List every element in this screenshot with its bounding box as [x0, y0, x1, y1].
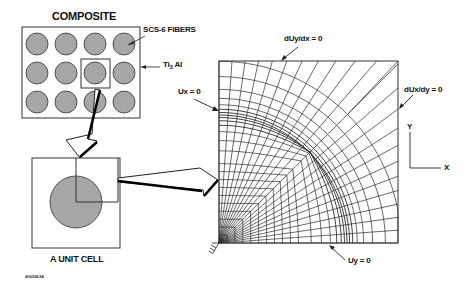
fiber	[84, 62, 106, 84]
fiber	[113, 91, 135, 113]
unit-cell-panel	[32, 158, 120, 248]
matrix-label-main: Ti	[163, 60, 170, 69]
fiber-label: SCS-6 FIBERS	[143, 25, 196, 34]
fiber	[55, 62, 77, 84]
fixed-support-icon	[209, 243, 219, 254]
fiber	[113, 62, 135, 84]
unit-cell-label: A UNIT CELL	[50, 254, 103, 264]
fiber	[55, 33, 77, 55]
fiber	[26, 62, 48, 84]
composite-panel	[22, 27, 160, 118]
figure-id: 4G0294-8A	[25, 274, 44, 279]
matrix-label-tail: Al	[173, 60, 182, 69]
left-boundary-condition: Ux = 0	[178, 87, 201, 96]
right-boundary-condition: dUx/dy = 0	[404, 85, 442, 94]
xy-axes-icon	[410, 132, 441, 168]
matrix-label: Ti3 Al	[163, 60, 182, 70]
composite-title: COMPOSITE	[52, 10, 116, 22]
bottom-boundary-condition: Uy = 0	[348, 256, 371, 265]
fiber	[26, 33, 48, 55]
finite-element-mesh	[219, 61, 398, 243]
fiber	[26, 91, 48, 113]
bottom-bc-arrow	[331, 247, 345, 260]
fiber	[55, 91, 77, 113]
y-axis-label: Y	[407, 122, 412, 131]
figure: COMPOSITE SCS-6 FIBERS Ti3 Al A UNIT CEL…	[0, 0, 467, 285]
x-axis-label: X	[444, 163, 449, 172]
zoom-arrow-right	[118, 168, 218, 196]
top-boundary-condition: dUy/dx = 0	[284, 34, 322, 43]
diagram-graphics	[0, 0, 467, 285]
fiber	[84, 33, 106, 55]
